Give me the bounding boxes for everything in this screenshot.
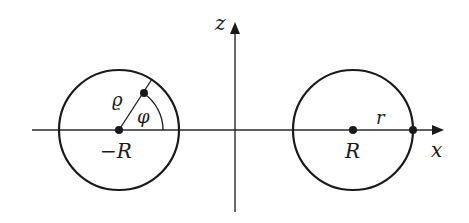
right-edge-point: [409, 126, 417, 134]
z-axis: [230, 22, 240, 212]
z-axis-label: z: [214, 11, 226, 35]
x-axis-arrow-icon: [432, 125, 444, 135]
diagram-canvas: z x −R ϱ φ R r: [0, 0, 469, 223]
z-axis-arrow-icon: [230, 22, 240, 34]
phi-label: φ: [137, 106, 150, 127]
point-on-radius: [140, 89, 148, 97]
rho-label: ϱ: [112, 89, 123, 110]
left-center-point: [115, 126, 123, 134]
right-center-label: R: [344, 139, 360, 163]
right-center-point: [349, 126, 357, 134]
x-axis-label: x: [431, 138, 442, 162]
r-label: r: [376, 107, 386, 128]
left-center-label: −R: [100, 139, 132, 163]
